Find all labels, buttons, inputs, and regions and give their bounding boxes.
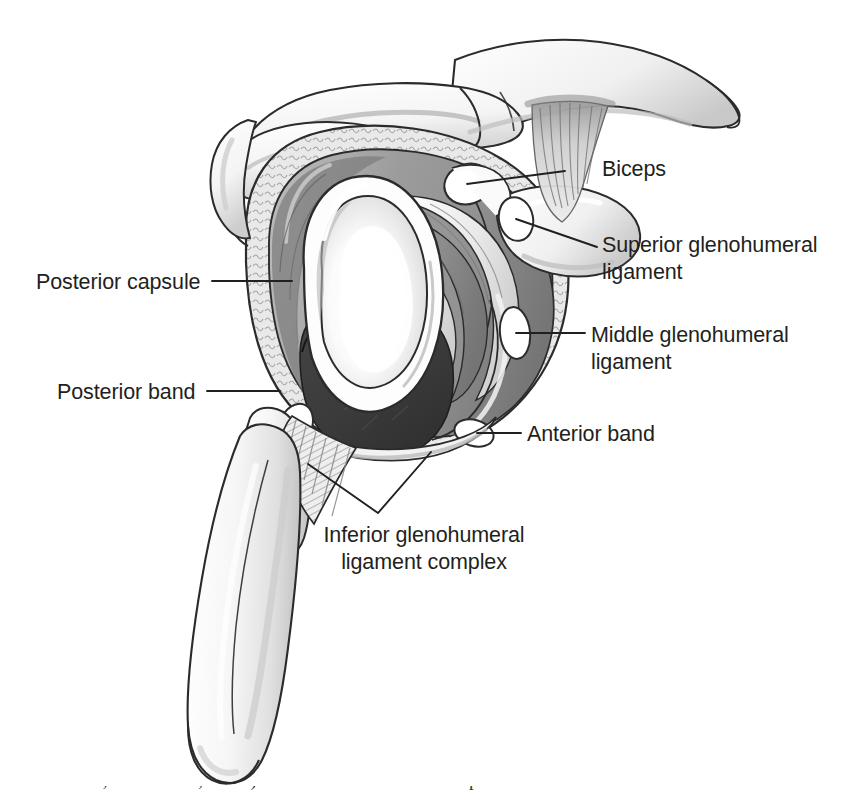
anatomical-figure: Biceps Superior glenohumeral ligament Mi… bbox=[0, 0, 841, 796]
caption-text: Moore, 2nd edition, 1992.) The anterior … bbox=[52, 786, 618, 791]
glenoid-group bbox=[299, 176, 443, 415]
label-posterior-band: Posterior band bbox=[57, 379, 195, 406]
label-inferior-glenohumeral-ligament-complex: Inferior glenohumeral ligament complex bbox=[311, 522, 537, 576]
label-posterior-capsule: Posterior capsule bbox=[36, 269, 200, 296]
caption-clipped-strip: Moore, 2nd edition, 1992.) The anterior … bbox=[0, 786, 841, 796]
label-middle-glenohumeral-ligament: Middle glenohumeral ligament bbox=[591, 322, 789, 376]
label-biceps: Biceps bbox=[602, 156, 666, 183]
label-superior-glenohumeral-ligament: Superior glenohumeral ligament bbox=[602, 232, 817, 286]
label-anterior-band: Anterior band bbox=[527, 421, 655, 448]
